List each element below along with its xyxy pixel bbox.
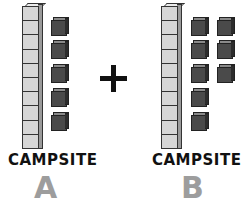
unit-cube — [191, 88, 209, 107]
unit-cube — [51, 40, 69, 59]
campsite-b-label: CAMPSITE — [152, 151, 241, 169]
ten-rod-a — [22, 7, 39, 149]
unit-cube — [217, 64, 235, 83]
unit-cube — [51, 64, 69, 83]
unit-cube — [191, 17, 209, 36]
unit-cube — [217, 17, 235, 36]
unit-cube — [51, 17, 69, 36]
unit-cube — [191, 112, 209, 131]
unit-cube — [217, 40, 235, 59]
campsite-a-label: CAMPSITE — [8, 151, 97, 169]
campsite-a-letter: A — [34, 170, 57, 205]
unit-cube — [191, 64, 209, 83]
campsite-b-letter: B — [181, 170, 204, 205]
unit-cube — [51, 88, 69, 107]
unit-cube — [191, 40, 209, 59]
unit-cube — [51, 112, 69, 131]
ten-rod-b — [161, 7, 178, 149]
